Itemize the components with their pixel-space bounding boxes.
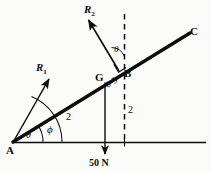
angle-arc-theta-a <box>39 126 44 142</box>
angle-arc-phi-a <box>32 97 63 142</box>
load-label-50n: 50 N <box>89 158 109 168</box>
point-label-c: C <box>190 26 198 37</box>
vector-label-r2-subscript: 2 <box>91 10 95 18</box>
beam-line-ac <box>13 33 190 142</box>
angle-label-phi-at-a: ϕ <box>47 124 53 135</box>
vector-label-r2: R2 <box>84 4 95 18</box>
point-label-b: B <box>124 68 131 79</box>
point-label-g: G <box>95 72 104 83</box>
vector-label-r1: R1 <box>36 62 47 76</box>
dimension-label-bc: 2 <box>128 105 133 115</box>
angle-label-theta-at-b: θ <box>114 45 118 54</box>
angle-label-theta-at-a: θ <box>26 130 31 140</box>
point-label-a: A <box>6 145 14 156</box>
vector-label-r1-subscript: 1 <box>43 68 47 76</box>
diagram-canvas <box>0 0 211 173</box>
dimension-label-ag: 2 <box>66 112 71 122</box>
force-diagram-figure: A B C G R1 R2 θ ϕ θ 2 0·5 2 50 N <box>0 0 211 173</box>
